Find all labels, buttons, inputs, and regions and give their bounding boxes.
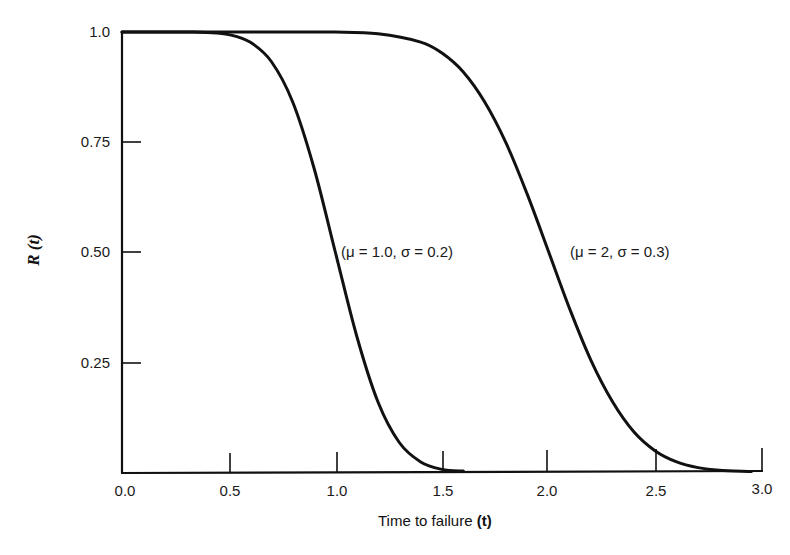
x-tick-label-30: 3.0 bbox=[742, 480, 782, 497]
chart-canvas bbox=[0, 0, 790, 555]
annotation-series-2: (μ = 2, σ = 0.3) bbox=[570, 243, 670, 260]
ticks bbox=[122, 142, 762, 473]
annotation-series-1: (μ = 1.0, σ = 0.2) bbox=[341, 243, 453, 260]
x-tick-label-05: 0.5 bbox=[210, 482, 250, 499]
x-axis-title: Time to failure (t) bbox=[378, 512, 492, 529]
x-tick-label-10: 1.0 bbox=[317, 482, 357, 499]
y-tick-label-050: 0.50 bbox=[50, 243, 110, 260]
x-axis-line bbox=[121, 471, 763, 473]
y-axis-title: R (t) bbox=[24, 234, 44, 266]
x-axis-title-text: Time to failure bbox=[378, 512, 472, 529]
x-tick-label-25: 2.5 bbox=[636, 482, 676, 499]
y-tick-label-075: 0.75 bbox=[50, 133, 110, 150]
x-tick-label-20: 2.0 bbox=[527, 482, 567, 499]
x-tick-label-0: 0.0 bbox=[105, 482, 145, 499]
y-tick-label-025: 0.25 bbox=[50, 354, 110, 371]
x-axis-title-var: (t) bbox=[477, 512, 492, 529]
y-tick-label-1: 1.0 bbox=[50, 23, 110, 40]
x-tick-label-15: 1.5 bbox=[423, 482, 463, 499]
